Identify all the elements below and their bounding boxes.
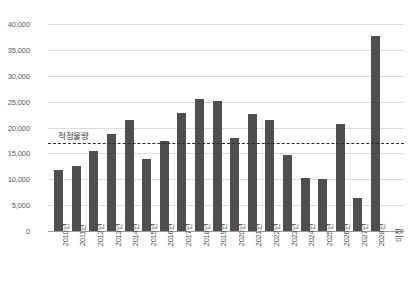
x-axis-label-slot: 2018년 xyxy=(191,233,209,282)
bar-slot xyxy=(314,24,332,231)
x-axis-label-slot: 2013년 xyxy=(103,233,121,282)
x-axis-label-slot: 2028년 xyxy=(367,233,385,282)
x-axis-label-slot: 2022년 xyxy=(261,233,279,282)
bar-slot xyxy=(85,24,103,231)
x-axis-label-slot: 2010년 xyxy=(50,233,68,282)
bar-slot xyxy=(384,24,402,231)
bar xyxy=(336,124,345,231)
x-axis-label-slot: 2020년 xyxy=(226,233,244,282)
bar-slot xyxy=(103,24,121,231)
y-axis-tick-label: 10,000 xyxy=(0,175,30,184)
bar xyxy=(107,134,116,231)
bar-slot xyxy=(349,24,367,231)
x-axis-label-slot: 2016년 xyxy=(156,233,174,282)
threshold-label: 적정물량 xyxy=(58,129,89,141)
bar-slot xyxy=(261,24,279,231)
x-axis-label-slot: 미정 xyxy=(384,233,402,282)
bar xyxy=(265,120,274,231)
bar xyxy=(177,113,186,232)
x-axis-label-slot: 2024년 xyxy=(296,233,314,282)
x-axis-tick-label: 미정 xyxy=(393,228,404,242)
y-axis-tick-label: 40,000 xyxy=(0,20,30,29)
bar-slot xyxy=(191,24,209,231)
bar xyxy=(213,101,222,231)
x-axis-label-slot: 2015년 xyxy=(138,233,156,282)
bar xyxy=(125,120,134,231)
bar-slot xyxy=(367,24,385,231)
bar xyxy=(248,114,257,231)
y-axis-tick-label: 15,000 xyxy=(0,149,30,158)
bar-slot xyxy=(244,24,262,231)
y-axis-tick-label: 35,000 xyxy=(0,45,30,54)
bar-slot xyxy=(120,24,138,231)
bar-slot xyxy=(279,24,297,231)
bar xyxy=(160,141,169,231)
x-axis-label-slot: 2014년 xyxy=(120,233,138,282)
bar-slot xyxy=(68,24,86,231)
bar xyxy=(230,138,239,231)
bar-chart: 40,00035,00030,00025,00020,00015,00010,0… xyxy=(0,0,416,282)
y-axis-tick-label: 0 xyxy=(0,227,30,236)
bar-slot xyxy=(332,24,350,231)
y-axis-tick-label: 5,000 xyxy=(0,201,30,210)
bar xyxy=(195,99,204,231)
x-axis-label-slot: 2023년 xyxy=(279,233,297,282)
y-axis-tick-label: 20,000 xyxy=(0,123,30,132)
x-axis-label-slot: 2012년 xyxy=(85,233,103,282)
bar-slot xyxy=(296,24,314,231)
bar-slot xyxy=(226,24,244,231)
bar-slot xyxy=(156,24,174,231)
bar xyxy=(371,36,380,231)
x-axis-label-slot: 2026년 xyxy=(332,233,350,282)
x-axis-labels: 2010년2011년2012년2013년2014년2015년2016년2017년… xyxy=(48,233,404,282)
y-axis-tick-label: 25,000 xyxy=(0,97,30,106)
x-axis-label-slot: 2021년 xyxy=(244,233,262,282)
x-axis-label-slot: 2017년 xyxy=(173,233,191,282)
bar-slot xyxy=(138,24,156,231)
bar xyxy=(283,155,292,231)
x-axis-label-slot: 2019년 xyxy=(208,233,226,282)
bar-slot xyxy=(208,24,226,231)
bar-slot xyxy=(173,24,191,231)
bar-series xyxy=(48,24,404,231)
x-axis-label-slot: 2027년 xyxy=(349,233,367,282)
bar xyxy=(72,166,81,231)
bar xyxy=(89,151,98,231)
bar xyxy=(142,159,151,231)
bar xyxy=(54,170,63,231)
threshold-line xyxy=(48,143,404,144)
bar-slot xyxy=(50,24,68,231)
x-axis-label-slot: 2011년 xyxy=(68,233,86,282)
x-axis-label-slot: 2025년 xyxy=(314,233,332,282)
y-axis-tick-label: 30,000 xyxy=(0,71,30,80)
